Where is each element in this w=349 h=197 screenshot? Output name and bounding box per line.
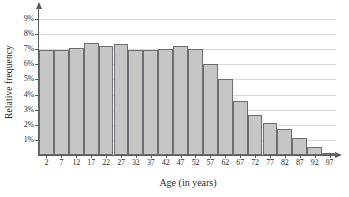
y-tick-label: 3% — [12, 106, 34, 114]
y-axis-tickmark — [35, 140, 39, 141]
y-axis-tickmark — [35, 95, 39, 96]
bar — [277, 129, 292, 155]
x-tick-label: 97 — [321, 158, 339, 168]
histogram-chart: Relative frequency 1%2%3%4%5%6%7%8%9% 27… — [0, 0, 349, 197]
x-tick-label-group: 27121722273237424752576267727782879297 — [38, 158, 338, 170]
bar — [188, 49, 203, 155]
bar — [248, 115, 263, 155]
bar — [158, 49, 173, 155]
y-axis-tickmark — [35, 79, 39, 80]
bar — [173, 46, 188, 156]
bar — [128, 50, 143, 155]
plot-area — [38, 10, 338, 156]
y-axis-tickmark — [35, 49, 39, 50]
bar — [203, 64, 218, 155]
y-tick-label: 4% — [12, 91, 34, 99]
y-axis-tickmark — [35, 110, 39, 111]
x-axis-title: Age (in years) — [38, 176, 338, 189]
bar — [114, 44, 129, 155]
y-axis-arrow-icon — [36, 2, 42, 9]
bar — [233, 101, 248, 155]
bar — [84, 43, 99, 155]
y-axis-tickmark — [35, 64, 39, 65]
bar — [218, 79, 233, 155]
y-tick-label: 7% — [12, 45, 34, 53]
bar — [69, 48, 84, 155]
bar — [143, 50, 158, 155]
y-tick-label: 9% — [12, 15, 34, 23]
y-axis-tickmark — [35, 19, 39, 20]
y-tick-label: 6% — [12, 60, 34, 68]
y-axis-tickmark — [35, 125, 39, 126]
y-tick-label: 8% — [12, 30, 34, 38]
bar — [39, 50, 54, 155]
bar — [54, 50, 69, 155]
y-tick-label-group: 1%2%3%4%5%6%7%8%9% — [12, 0, 34, 197]
bar — [263, 123, 278, 155]
y-axis-tickmark — [35, 34, 39, 35]
bar — [99, 46, 114, 156]
y-tick-label: 2% — [12, 121, 34, 129]
bar — [292, 138, 307, 155]
y-tick-label: 5% — [12, 75, 34, 83]
y-tick-label: 1% — [12, 136, 34, 144]
bar-group — [39, 10, 338, 156]
